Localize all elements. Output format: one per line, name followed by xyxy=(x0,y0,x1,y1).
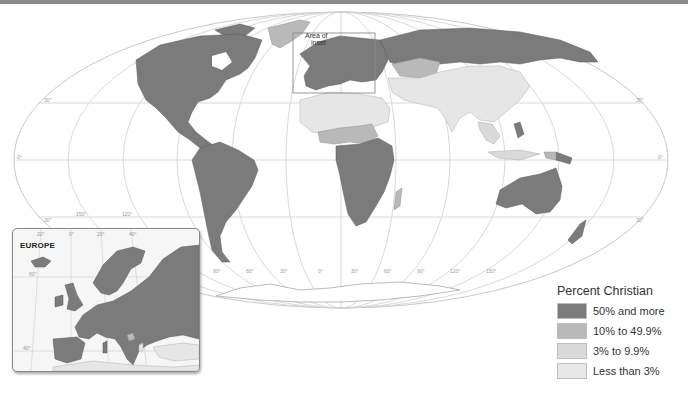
lat-label: 30° xyxy=(636,217,644,223)
inset-marker-label: inset xyxy=(311,39,326,46)
inset-lon-label: 40° xyxy=(129,231,137,237)
lon-label: 90° xyxy=(213,268,221,274)
legend-swatch xyxy=(557,363,587,379)
lon-label: 30° xyxy=(280,268,288,274)
turkey xyxy=(153,343,199,361)
legend-label: Less than 3% xyxy=(593,365,660,377)
lon-label: 150° xyxy=(76,211,86,217)
legend-label: 10% to 49.9% xyxy=(593,325,662,337)
lon-label: 120° xyxy=(122,211,132,217)
inset-lat-label: 60° xyxy=(29,271,37,277)
ireland xyxy=(55,295,63,307)
lon-label: 60° xyxy=(384,268,392,274)
legend-item-less-than-3: Less than 3% xyxy=(557,362,687,379)
inset-title: EUROPE xyxy=(20,241,55,250)
legend-label: 3% to 9.9% xyxy=(593,345,649,357)
inset-marker-label: Area of xyxy=(305,32,328,39)
lon-label: 90° xyxy=(417,268,425,274)
north-africa-inset xyxy=(53,361,199,371)
lat-label: 30° xyxy=(44,97,52,103)
lon-label: 0° xyxy=(318,268,323,274)
legend-item-10-to-49: 10% to 49.9% xyxy=(557,322,687,339)
inset-lon-label: 20° xyxy=(97,231,105,237)
lon-label: 120° xyxy=(450,268,460,274)
lat-label: 0° xyxy=(658,154,663,160)
lat-label: 30° xyxy=(44,217,52,223)
legend-item-3-to-9: 3% to 9.9% xyxy=(557,342,687,359)
inset-lon-label: 20° xyxy=(37,231,45,237)
inset-lon-label: 0° xyxy=(69,231,74,237)
europe-inset: 20° 0° 20° 40° 60° 40° EUROPE xyxy=(12,228,200,372)
legend: Percent Christian 50% and more 10% to 49… xyxy=(557,284,687,382)
inset-lat-label: 40° xyxy=(23,345,31,351)
legend-swatch xyxy=(557,303,587,319)
legend-item-50-and-more: 50% and more xyxy=(557,302,687,319)
legend-swatch xyxy=(557,343,587,359)
iceland xyxy=(31,257,51,267)
great-britain xyxy=(65,283,83,311)
lon-label: 150° xyxy=(486,268,496,274)
lon-label: 60° xyxy=(246,268,254,274)
legend-swatch xyxy=(557,323,587,339)
iberia xyxy=(53,337,85,363)
lon-label: 30° xyxy=(351,268,359,274)
sardinia xyxy=(103,341,107,353)
inset-map: 20° 0° 20° 40° 60° 40° xyxy=(13,229,199,371)
legend-label: 50% and more xyxy=(593,305,665,317)
lat-label: 30° xyxy=(636,97,644,103)
legend-title: Percent Christian xyxy=(557,284,687,298)
lat-label: 0° xyxy=(17,154,22,160)
